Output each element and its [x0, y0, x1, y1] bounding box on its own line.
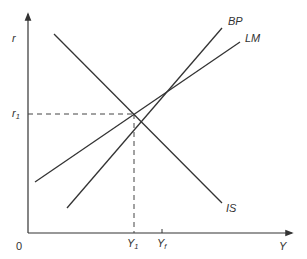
- bp-label: BP: [228, 15, 243, 27]
- is-label: IS: [226, 202, 237, 214]
- r1-label: r1: [12, 107, 20, 121]
- is-lm-bp-diagram: r Y 0 BP LM IS r1 Y1 Yf: [0, 0, 307, 259]
- y-axis-label: r: [12, 32, 17, 44]
- yf-label: Yf: [157, 237, 167, 251]
- origin-label: 0: [16, 240, 22, 252]
- lm-curve: [35, 42, 240, 182]
- y1-label: Y1: [127, 237, 139, 251]
- x-axis-label: Y: [279, 240, 287, 252]
- lm-label: LM: [245, 32, 261, 44]
- is-curve: [54, 34, 222, 203]
- bp-curve: [67, 28, 222, 208]
